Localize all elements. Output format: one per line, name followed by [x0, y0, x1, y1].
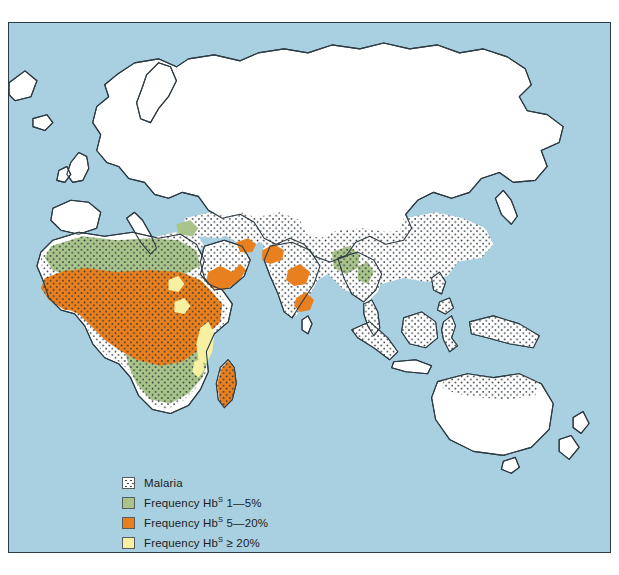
legend-label-hbs-1-5: Frequency HbS 1—5%: [144, 497, 262, 509]
legend-item-hbs-5-20: Frequency HbS 5—20%: [122, 515, 268, 530]
legend-label-suffix: ≥ 20%: [223, 537, 260, 549]
legend-label-prefix: Frequency Hb: [144, 497, 218, 509]
legend-label-prefix: Frequency Hb: [144, 537, 218, 549]
map-legend: Malaria Frequency HbS 1—5% Frequency HbS…: [122, 475, 268, 550]
legend-item-hbs-1-5: Frequency HbS 1—5%: [122, 495, 268, 510]
legend-label-suffix: 5—20%: [223, 517, 268, 529]
legend-swatch-malaria: [122, 477, 135, 489]
legend-item-hbs-ge-20: Frequency HbS ≥ 20%: [122, 535, 268, 550]
world-map: [9, 23, 610, 552]
caption-sliver: [0, 566, 619, 575]
legend-label-hbs-5-20: Frequency HbS 5—20%: [144, 517, 268, 529]
legend-label-prefix: Frequency Hb: [144, 517, 218, 529]
legend-swatch-hbs-ge-20: [122, 537, 135, 549]
legend-item-malaria: Malaria: [122, 475, 268, 490]
map-plate: Malaria Frequency HbS 1—5% Frequency HbS…: [8, 22, 611, 553]
figure-page: Malaria Frequency HbS 1—5% Frequency HbS…: [0, 0, 619, 575]
legend-swatch-hbs-1-5: [122, 497, 135, 509]
legend-label-hbs-ge-20: Frequency HbS ≥ 20%: [144, 537, 260, 549]
legend-swatch-hbs-5-20: [122, 517, 135, 529]
legend-label-suffix: 1—5%: [223, 497, 261, 509]
legend-label-malaria: Malaria: [144, 477, 183, 489]
